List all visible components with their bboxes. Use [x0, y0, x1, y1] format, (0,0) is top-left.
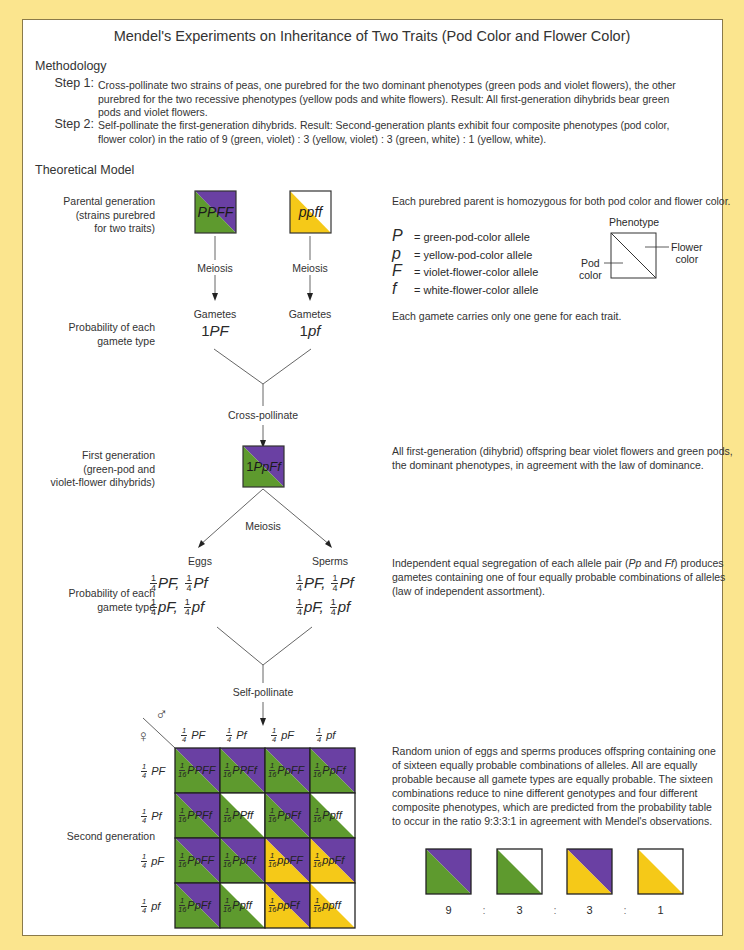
fraction: 14 — [296, 574, 303, 593]
punnett-cell: 116Ppff — [223, 894, 252, 916]
label-line: Parental generation — [30, 195, 155, 209]
gamete-fraction: 14PF, — [296, 573, 325, 592]
gamete-allele: pF, — [158, 599, 178, 616]
gamete-allele: pF, — [304, 599, 324, 616]
allele-legend: P= green-pod-color allele p= yellow-pod-… — [392, 228, 538, 298]
gamete-count: 1 — [300, 322, 308, 339]
meiosis-label-left: Meiosis — [185, 262, 245, 274]
header-allele: pf — [326, 729, 335, 741]
punnett-column-header: 14Pf — [226, 724, 247, 746]
label-line: gamete type — [30, 601, 155, 615]
ratio-separator: : — [545, 904, 565, 916]
fraction: 116 — [178, 762, 186, 779]
fraction: 14 — [184, 598, 191, 617]
allele-meaning: = yellow-pod-color allele — [414, 249, 532, 261]
parent-genotype-dominant: PPFF — [195, 204, 236, 220]
gamete-fraction-row: 14pF,14pf — [296, 595, 376, 619]
gametes-label-right: Gametes — [275, 308, 345, 320]
cell-genotype: ppFf — [322, 854, 344, 866]
punnett-cell: 116ppff — [313, 894, 341, 916]
fraction: 116 — [313, 852, 321, 869]
header-allele: pF — [281, 729, 294, 741]
punnett-cell: 116PpFf — [223, 849, 256, 871]
cell-genotype: PPff — [232, 809, 253, 821]
header-allele: pF — [151, 855, 164, 867]
meiosis-label-right: Meiosis — [280, 262, 340, 274]
cell-genotype: Ppff — [322, 809, 342, 821]
eggs-label: Eggs — [170, 555, 230, 567]
gamete-fraction-row: 14pF,14pf — [150, 595, 230, 619]
cell-genotype: PpFF — [277, 764, 304, 776]
fraction: 14 — [331, 574, 338, 593]
f1-genotype: 1PpFf — [243, 459, 284, 474]
header-allele: Pf — [236, 729, 246, 741]
fraction: 116 — [223, 897, 231, 914]
male-symbol-icon: ♂ — [155, 705, 168, 725]
cell-genotype: PPFf — [187, 809, 211, 821]
punnett-column-header: 14PF — [181, 724, 205, 746]
gamete-description: Each gamete carries only one gene for ea… — [392, 309, 742, 323]
gamete-fraction: 14pf — [184, 597, 205, 616]
cell-genotype: ppFF — [277, 854, 303, 866]
desc-part: Independent equal segregation of each al… — [392, 557, 628, 569]
gamete-pf-recessive: 1pf — [275, 322, 345, 339]
fraction: 14 — [330, 598, 337, 617]
fraction: 14 — [150, 574, 157, 593]
fraction: 116 — [178, 852, 186, 869]
fraction: 116 — [268, 897, 276, 914]
cell-genotype: Ppff — [232, 899, 252, 911]
desc-part: Ff — [665, 557, 674, 569]
fraction: 116 — [268, 852, 276, 869]
label-line: Probability of each — [30, 587, 155, 601]
ratio-separator: : — [615, 904, 635, 916]
allele-symbol: f — [392, 281, 414, 298]
desc-part: and — [641, 557, 664, 569]
allele-symbol: p — [392, 246, 414, 263]
fraction: 116 — [313, 897, 321, 914]
punnett-cell: 116Ppff — [313, 804, 342, 826]
fraction: 14 — [141, 808, 147, 825]
allele-meaning: = green-pod-color allele — [414, 231, 530, 243]
gamete-fraction-row: 14PF,14Pf — [150, 571, 230, 595]
cell-genotype: PpFf — [187, 899, 210, 911]
label-line: First generation — [10, 449, 155, 463]
phenotype-key-flower-label: Flower color — [671, 241, 703, 265]
punnett-cell: 116PpFf — [313, 759, 346, 781]
header-allele: pf — [151, 900, 160, 912]
first-generation-description: All first-generation (dihybrid) offsprin… — [392, 444, 744, 472]
fraction: 14 — [141, 853, 147, 870]
gamete-allele: PF, — [304, 575, 325, 592]
cell-genotype: PPFf — [232, 764, 256, 776]
allele-meaning: = violet-flower-color allele — [414, 266, 538, 278]
gamete-allele: Pf — [339, 575, 353, 592]
parental-generation-label: Parental generation (strains purebred fo… — [30, 195, 155, 236]
punnett-cell: 116PPFF — [178, 759, 215, 781]
cross-pollinate-label: Cross-pollinate — [213, 409, 313, 421]
fraction: 14 — [296, 598, 303, 617]
allele-meaning: = white-flower-color allele — [414, 284, 538, 296]
second-generation-description: Random union of eggs and sperms produces… — [392, 744, 722, 828]
ratio-count: 3 — [580, 904, 600, 916]
gamete-probability-label-2: Probability of each gamete type — [30, 587, 155, 614]
allele-symbol: P — [392, 228, 414, 245]
punnett-cell: 116PPff — [223, 804, 253, 826]
fraction: 14 — [185, 574, 192, 593]
cell-genotype: PPFF — [187, 764, 215, 776]
ratio-count: 9 — [439, 904, 459, 916]
fraction: 14 — [141, 763, 147, 780]
fraction: 14 — [226, 727, 232, 744]
header-allele: PF — [191, 729, 205, 741]
fraction: 116 — [223, 762, 231, 779]
gamete-allele: pf — [338, 599, 351, 616]
fraction: 116 — [313, 807, 321, 824]
allele-legend-row: f= white-flower-color allele — [392, 281, 538, 299]
parental-description: Each purebred parent is homozygous for b… — [392, 194, 742, 208]
label-line: violet-flower dihybrids) — [10, 476, 155, 490]
cell-genotype: PpFf — [322, 764, 345, 776]
key-line: Flower — [671, 241, 703, 253]
segregation-description: Independent equal segregation of each al… — [392, 556, 732, 598]
cell-genotype: ppFf — [277, 899, 299, 911]
punnett-row-header: 14pf — [141, 895, 160, 917]
gamete-fraction: 14PF, — [150, 573, 179, 592]
parent-genotype-recessive: ppff — [290, 204, 331, 220]
